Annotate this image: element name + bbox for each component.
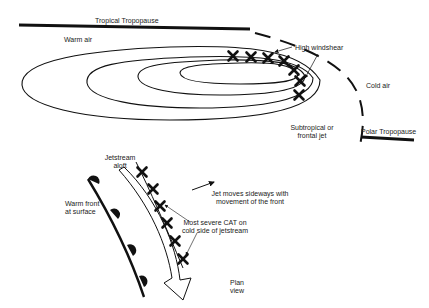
label-plan-view: Plan view xyxy=(222,279,252,295)
label-warm-front: Warm front at surface xyxy=(65,200,99,216)
diagram-canvas xyxy=(0,0,429,308)
tropical-tropopause-line xyxy=(19,25,250,29)
label-jet-moves-line2: movement of the front xyxy=(205,198,295,206)
sideways-movement-arrow xyxy=(192,182,214,190)
label-cat-line1: Most severe CAT on xyxy=(175,219,255,227)
label-plan-line2: view xyxy=(222,287,252,295)
label-jet-moves: Jet moves sideways with movement of the … xyxy=(205,190,295,206)
label-subtropical-jet: Subtropical or frontal jet xyxy=(282,124,342,140)
jetstream-diagram: Tropical Tropopause Warm air High windsh… xyxy=(0,0,429,308)
label-high-windshear: High windshear xyxy=(295,44,343,52)
label-cat-line2: cold side of jetstream xyxy=(175,227,255,235)
isotach-contours xyxy=(22,47,320,120)
label-warm-front-line2: at surface xyxy=(65,208,99,216)
label-warm-air: Warm air xyxy=(64,36,92,44)
label-jet-moves-line1: Jet moves sideways with xyxy=(205,190,295,198)
label-jetstream-line2: aloft xyxy=(95,162,145,170)
label-subtropical-jet-line1: Subtropical or xyxy=(282,124,342,132)
label-subtropical-jet-line2: frontal jet xyxy=(282,132,342,140)
label-jetstream-line1: Jetstream xyxy=(95,154,145,162)
label-jetstream-aloft: Jetstream aloft xyxy=(95,154,145,170)
label-polar-tropopause: Polar Tropopause xyxy=(361,128,416,136)
label-tropical-tropopause: Tropical Tropopause xyxy=(95,17,159,25)
label-plan-line1: Plan xyxy=(222,279,252,287)
label-cold-air: Cold air xyxy=(366,82,390,90)
polar-tropopause-line xyxy=(361,137,414,140)
label-severe-cat: Most severe CAT on cold side of jetstrea… xyxy=(175,219,255,235)
label-warm-front-line1: Warm front xyxy=(65,200,99,208)
warm-front-bump xyxy=(110,208,120,219)
